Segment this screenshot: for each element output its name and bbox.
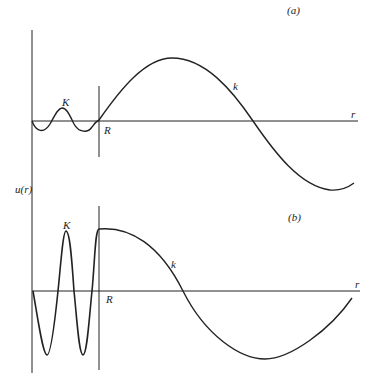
wavefunction-diagram [0, 0, 374, 381]
panel-a-axis-label: r [351, 108, 355, 120]
outer-wave-a [99, 58, 354, 190]
panel-b-boundary-label: R [106, 293, 113, 305]
panel-b-label: (b) [288, 211, 301, 223]
panel-a-outer-wave-label: k [233, 80, 238, 92]
panel-a-boundary-label: R [104, 124, 111, 136]
panel-b-axis-label: r [355, 278, 359, 290]
panel-b-outer-wave-label: k [171, 258, 176, 270]
panel-a-inner-wave-label: K [62, 96, 69, 108]
outer-wave-b [99, 229, 352, 359]
y-axis-label: u(r) [15, 183, 32, 195]
inner-wave-b [33, 229, 99, 355]
panel-a-label: (a) [287, 4, 300, 16]
panel-b-inner-wave-label: K [63, 219, 70, 231]
inner-wave-a [32, 108, 99, 131]
